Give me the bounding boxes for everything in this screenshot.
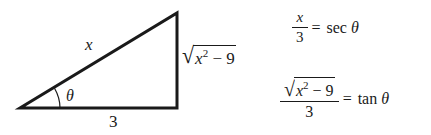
tan-function: tan [358,90,378,108]
theta-variable: θ [351,19,359,37]
radical-expression: √ x2 − 9 [182,45,236,67]
equation-sec: x 3 = sec θ [294,9,359,46]
radical-expression: √ x2 − 9 [284,77,335,99]
angle-arc [55,88,61,108]
opposite-side-label: √ x2 − 9 [182,45,236,67]
radicand-rest: − 9 [309,82,334,99]
fraction-x-over-3: x 3 [294,9,306,46]
radicand: x2 − 9 [193,45,236,67]
radicand: x2 − 9 [294,77,335,99]
radicand-base: x [195,49,203,68]
fraction-denominator: 3 [280,101,339,121]
fraction-numerator: x [294,9,305,27]
angle-theta-label: θ [66,88,74,104]
sec-function: sec [327,19,347,37]
fraction-radical-over-3: √ x2 − 9 3 [282,77,337,121]
fraction-denominator: 3 [292,27,308,46]
adjacent-side-label: 3 [109,113,118,130]
hypotenuse-label: x [85,36,93,53]
equation-tan: √ x2 − 9 3 = tan θ [282,77,389,121]
radical-sign: √ [182,44,194,67]
fraction-numerator: √ x2 − 9 [282,77,337,101]
radicand-rest: − 9 [208,49,235,68]
equals-sign: = [312,19,321,37]
equals-sign: = [343,90,352,108]
theta-variable: θ [381,90,389,108]
triangle-outline [20,13,177,108]
radical-sign: √ [284,79,295,100]
